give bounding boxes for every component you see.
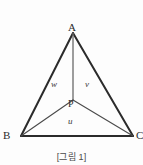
interior-point-label-p: P — [68, 99, 74, 109]
vertex-label-c: C — [136, 130, 143, 141]
region-label-w: w — [51, 80, 57, 89]
segment-P-C — [73, 100, 133, 136]
outer-triangle — [21, 33, 133, 136]
segment-P-B — [21, 100, 73, 136]
region-label-v: v — [85, 80, 89, 89]
cevian-segments — [21, 33, 133, 136]
edge-A-C — [73, 33, 133, 136]
edge-A-B — [21, 33, 73, 136]
figure-container: A B C P w v u [그림 1] — [0, 0, 143, 165]
figure-caption: [그림 1] — [0, 150, 143, 163]
vertex-label-a: A — [68, 22, 76, 33]
region-label-u: u — [68, 117, 73, 126]
vertex-label-b: B — [3, 130, 10, 141]
